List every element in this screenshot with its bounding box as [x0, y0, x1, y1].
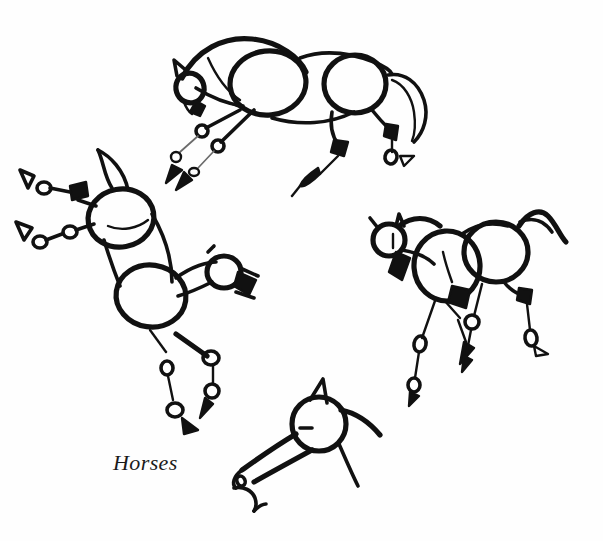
cannon-raised-a [50, 188, 70, 192]
neck-curve [98, 150, 128, 190]
foreleg-near [422, 298, 436, 338]
chest-shade [108, 220, 148, 229]
fetlock-near-fore [171, 152, 181, 162]
hock-near-hind [331, 140, 348, 156]
nostril [235, 475, 246, 487]
hoof-far-hind [200, 398, 213, 418]
cannon-near-fore [180, 136, 198, 152]
horses-gesture-drawing [0, 0, 603, 541]
neck-line [339, 444, 358, 486]
mouth-line [234, 487, 256, 511]
forelock [370, 218, 378, 228]
hoof-near-hind [300, 168, 320, 186]
cannon-raised-b [46, 234, 62, 240]
fetlock-near-fore [408, 378, 420, 392]
foreleg-upper-near [206, 110, 240, 128]
figure-horse-bottom [234, 379, 380, 511]
hoof-near-hind [182, 418, 198, 434]
fetlock-raised-b [33, 236, 47, 248]
figure-horse-top [166, 39, 426, 196]
knee-near-fore [413, 335, 428, 353]
hock-far-hind [517, 288, 532, 304]
hock-near-hind [465, 315, 479, 329]
artwork-canvas: Horses [0, 0, 603, 541]
ear [208, 246, 214, 252]
fetlock-near-hind [167, 403, 183, 417]
foreleg-upper-far [221, 110, 254, 142]
hoof-far-hind [534, 346, 548, 356]
tail-tip [520, 220, 552, 232]
hoof-far-hind [400, 156, 414, 166]
fetlock-far-fore [189, 168, 199, 176]
chest-oval [83, 184, 158, 253]
knee-block-raised-a [70, 182, 88, 200]
neck-top-line [399, 219, 440, 227]
figure-horse-left [16, 150, 258, 434]
hoof-near-fore [409, 392, 419, 406]
cannon-near-hind [320, 156, 338, 174]
cannon-far-fore [198, 151, 214, 168]
knee-block-far-fore [448, 286, 470, 308]
artwork-caption: Horses [113, 450, 178, 476]
figure-horse-right [370, 212, 566, 406]
hock-near-hind [161, 361, 173, 375]
cannon-near-hind [168, 376, 173, 400]
fetlock-far-hind [524, 329, 538, 347]
cannon-near-fore [415, 352, 419, 378]
hindleg-upper-near [150, 330, 166, 352]
fetlock-far-hind [384, 149, 399, 165]
fetlock-far-hind [205, 384, 219, 398]
hoof-near-hind-flick [292, 186, 300, 196]
knee-raised-b [63, 226, 77, 238]
hock-far-hind [384, 124, 398, 140]
barrel-shade [443, 252, 452, 282]
hindquarter-oval [464, 222, 528, 282]
cannon-far-hind [527, 304, 530, 330]
hoof-raised-a [20, 170, 34, 188]
hoof-near-hind [462, 356, 472, 372]
hoof-raised-b [16, 222, 32, 240]
hindleg-upper-far [176, 334, 207, 356]
